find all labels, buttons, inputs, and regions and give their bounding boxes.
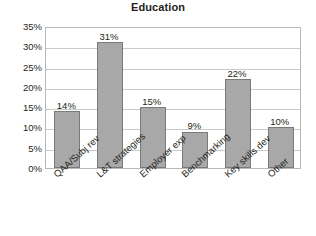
y-axis-tick-label: 15% xyxy=(2,103,42,113)
y-axis-tick-label: 5% xyxy=(2,144,42,154)
bar-value-label: 14% xyxy=(41,101,91,111)
y-axis-tick-label: 0% xyxy=(2,164,42,174)
gridline xyxy=(46,48,300,49)
bar-value-label: 31% xyxy=(84,32,134,42)
bar-value-label: 22% xyxy=(212,69,262,79)
y-axis-tick-label: 10% xyxy=(2,123,42,133)
bar-value-label: 9% xyxy=(169,121,219,131)
gridline xyxy=(46,89,300,90)
bar-value-label: 15% xyxy=(127,97,177,107)
y-axis-tick-label: 25% xyxy=(2,63,42,73)
y-axis-tick-label: 20% xyxy=(2,83,42,93)
y-axis-tick-label: 30% xyxy=(2,42,42,52)
bar-value-label: 10% xyxy=(255,117,305,127)
bar-chart: Education 35%30%25%20%15%10%5%0% 14%31%1… xyxy=(0,0,316,236)
y-axis-tick-label: 35% xyxy=(2,22,42,32)
chart-title: Education xyxy=(0,1,316,13)
